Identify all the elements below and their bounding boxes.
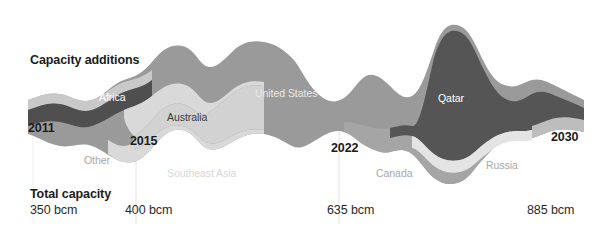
axis-year-2015: 2015 bbox=[130, 135, 157, 149]
total-value-2030: 885 bcm bbox=[527, 204, 574, 218]
total-value-2022: 635 bcm bbox=[327, 204, 374, 218]
axis-year-2011: 2011 bbox=[28, 122, 55, 136]
band-label-canada: Canada bbox=[376, 168, 412, 180]
page-title: Capacity additions bbox=[30, 54, 139, 68]
band-label-africa: Africa bbox=[99, 92, 126, 104]
band-label-other: Other bbox=[84, 155, 110, 167]
total-capacity-label: Total capacity bbox=[30, 188, 111, 202]
band-label-qatar: Qatar bbox=[438, 93, 464, 105]
streamgraph-figure: Capacity additions Total capacity 2011 2… bbox=[0, 0, 608, 228]
band-label-southeast-asia: Southeast Asia bbox=[167, 168, 236, 180]
total-value-2015: 400 bcm bbox=[125, 204, 172, 218]
band-label-russia: Russia bbox=[486, 160, 518, 172]
band-label-united-states: United States bbox=[255, 88, 317, 100]
total-value-2011: 350 bcm bbox=[30, 204, 77, 218]
axis-year-2030: 2030 bbox=[551, 131, 578, 145]
band-label-australia: Australia bbox=[167, 112, 207, 124]
axis-year-2022: 2022 bbox=[331, 142, 358, 156]
